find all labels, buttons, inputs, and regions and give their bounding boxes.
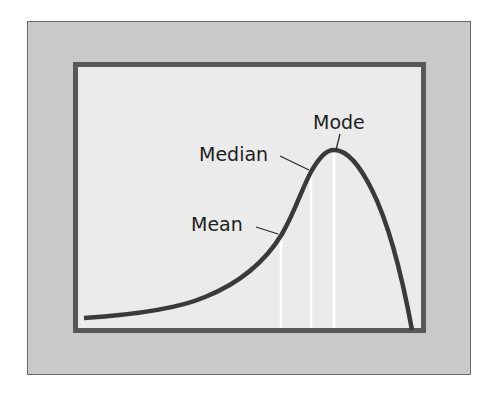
mean-label: Mean xyxy=(191,213,243,235)
median-leader-line xyxy=(280,156,309,170)
mean-leader-line xyxy=(256,227,278,234)
skewed-distribution-chart: Mode Median Mean xyxy=(0,0,497,396)
distribution-curve xyxy=(84,150,412,330)
mode-label: Mode xyxy=(313,111,365,133)
mode-leader-line xyxy=(336,134,340,150)
median-label: Median xyxy=(199,143,268,165)
